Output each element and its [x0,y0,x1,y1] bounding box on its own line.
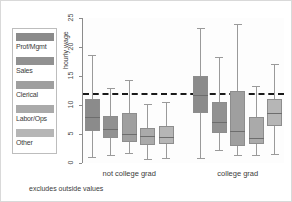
whisker-cap-lower [215,150,223,151]
whisker-cap-lower [107,155,115,156]
whisker-cap-lower [271,154,279,155]
whisker-upper [237,24,238,91]
whisker-cap-upper [144,104,152,105]
box-iqr [212,102,227,133]
legend-swatch [16,57,54,65]
whisker-cap-upper [252,86,260,87]
x-group-label: not college grad [83,169,176,178]
box-iqr [230,91,245,146]
median-line [159,137,174,138]
box-plot[interactable] [85,18,100,163]
whisker-cap-upper [162,102,170,103]
legend: Prof/MgmtSalesClericalLabor/OpsOther [12,28,57,154]
whisker-cap-lower [252,155,260,156]
median-line [230,131,245,132]
whisker-cap-lower [234,155,242,156]
legend-label: Other [16,138,53,147]
median-line [85,117,100,118]
whisker-cap-lower [144,159,152,160]
y-tick-mark [79,134,82,135]
y-tick-mark [79,163,82,164]
whisker-cap-lower [125,153,133,154]
box-plot[interactable] [122,18,137,163]
whisker-cap-upper [197,28,205,29]
median-line [212,122,227,123]
whisker-cap-lower [88,157,96,158]
box-plot[interactable] [159,18,174,163]
box-plot[interactable] [140,18,155,163]
whisker-upper [129,80,130,112]
y-tick-label: 10 [67,98,74,112]
whisker-lower [200,113,201,159]
whisker-lower [129,142,130,153]
whisker-upper [274,64,275,98]
chart-note: excludes outside values [29,185,103,192]
legend-item[interactable]: Labor/Ops [16,105,53,128]
box-plot[interactable] [249,18,264,163]
whisker-lower [237,146,238,155]
legend-swatch [16,105,54,113]
legend-swatch [16,33,54,41]
figure-canvas: Prof/MgmtSalesClericalLabor/OpsOther hou… [0,0,292,202]
legend-label: Sales [16,66,53,75]
box-iqr [85,99,100,131]
median-line [103,129,118,130]
box-iqr [249,117,264,144]
median-line [249,138,264,139]
median-line [267,113,282,114]
whisker-cap-lower [197,158,205,159]
legend-item[interactable]: Prof/Mgmt [16,33,53,56]
whisker-cap-upper [234,24,242,25]
legend-swatch [16,81,54,89]
legend-label: Prof/Mgmt [16,42,53,51]
whisker-upper [256,86,257,117]
box-plot[interactable] [267,18,282,163]
legend-item[interactable]: Sales [16,57,53,80]
y-tick-mark [79,47,82,48]
median-line [193,95,208,96]
y-tick-label: 20 [67,40,74,54]
whisker-cap-upper [215,57,223,58]
legend-item[interactable]: Clerical [16,81,53,104]
whisker-cap-upper [271,64,279,65]
whisker-cap-upper [107,88,115,89]
whisker-lower [166,144,167,158]
whisker-lower [256,144,257,154]
box-plot[interactable] [230,18,245,163]
legend-label: Labor/Ops [16,114,53,123]
y-tick-label: 25 [67,11,74,25]
whisker-lower [92,131,93,157]
legend-label: Clerical [16,90,53,99]
y-tick-label: 5 [67,127,74,141]
legend-item[interactable]: Other [16,129,53,152]
y-tick-mark [79,105,82,106]
median-line [122,134,137,135]
whisker-upper [110,88,111,116]
whisker-lower [147,145,148,159]
whisker-upper [92,55,93,99]
whisker-lower [219,133,220,150]
plot-area [83,18,284,163]
median-line [140,136,155,137]
whisker-upper [147,104,148,128]
box-iqr [159,126,174,145]
y-tick-mark [79,76,82,77]
whisker-cap-upper [88,55,96,56]
y-tick-label: 15 [67,69,74,83]
box-plot[interactable] [103,18,118,163]
whisker-lower [274,126,275,154]
box-plot[interactable] [212,18,227,163]
box-plot[interactable] [193,18,208,163]
box-iqr [103,116,118,138]
whisker-lower [110,138,111,155]
whisker-upper [200,28,201,76]
whisker-cap-lower [162,158,170,159]
whisker-cap-upper [125,80,133,81]
whisker-upper [219,57,220,102]
y-tick-label: 0 [67,156,74,170]
legend-swatch [16,129,54,137]
x-group-label: college grad [192,169,285,178]
y-tick-mark [79,18,82,19]
whisker-upper [166,102,167,126]
box-iqr [122,113,137,142]
